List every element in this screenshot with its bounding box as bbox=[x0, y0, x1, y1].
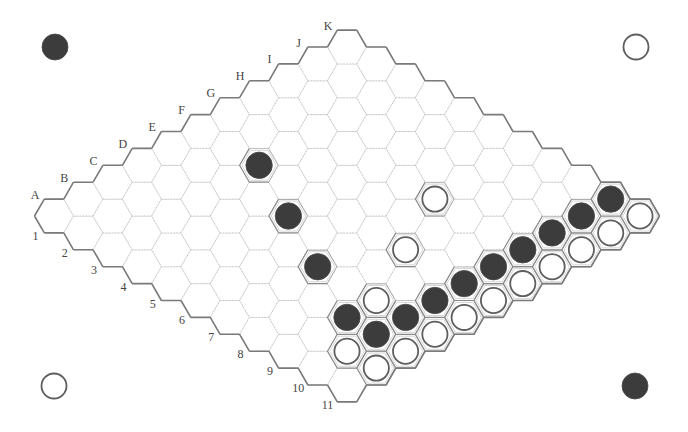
black-stone-K10 bbox=[598, 186, 624, 212]
black-stone-E10 bbox=[422, 287, 448, 313]
black-stone-F3 bbox=[246, 152, 272, 178]
white-stone-B10 bbox=[334, 339, 359, 364]
col-label-1: 1 bbox=[33, 229, 39, 243]
row-label-D: D bbox=[119, 137, 128, 151]
white-stone-F8 bbox=[393, 237, 418, 262]
col-label-10: 10 bbox=[292, 381, 304, 395]
row-label-A: A bbox=[31, 188, 40, 202]
row-label-F: F bbox=[178, 103, 185, 117]
row-label-E: E bbox=[149, 120, 156, 134]
black-stone-E5 bbox=[275, 203, 301, 229]
col-label-9: 9 bbox=[267, 364, 273, 378]
row-label-K: K bbox=[324, 19, 333, 33]
white-stone-C11 bbox=[393, 339, 418, 364]
white-stone-K11 bbox=[627, 203, 652, 228]
row-label-H: H bbox=[236, 69, 245, 83]
row-label-B: B bbox=[60, 171, 68, 185]
row-label-C: C bbox=[90, 154, 98, 168]
col-label-5: 5 bbox=[150, 297, 156, 311]
white-stone-F11 bbox=[481, 288, 506, 313]
corner-marker-top-left-black-icon bbox=[42, 34, 68, 60]
row-label-I: I bbox=[267, 52, 271, 66]
col-label-8: 8 bbox=[238, 347, 244, 361]
white-stone-D11 bbox=[422, 322, 447, 347]
black-stone-I10 bbox=[539, 220, 565, 246]
col-label-7: 7 bbox=[208, 330, 214, 344]
black-stone-G10 bbox=[480, 254, 506, 280]
white-stone-J11 bbox=[598, 220, 623, 245]
corner-marker-bottom-left-white-icon bbox=[42, 374, 67, 399]
col-label-2: 2 bbox=[62, 246, 68, 260]
white-stone-H11 bbox=[540, 254, 565, 279]
white-stone-E11 bbox=[452, 305, 477, 330]
white-stone-D9 bbox=[364, 288, 389, 313]
white-stone-I11 bbox=[569, 237, 594, 262]
corner-marker-top-right-white-icon bbox=[624, 35, 649, 60]
corner-marker-bottom-right-black-icon bbox=[622, 373, 648, 399]
black-stone-F10 bbox=[451, 270, 477, 296]
white-stone-H7 bbox=[422, 187, 447, 212]
row-label-G: G bbox=[206, 86, 215, 100]
white-stone-G11 bbox=[510, 271, 535, 296]
white-stone-B11 bbox=[364, 356, 389, 381]
col-label-4: 4 bbox=[120, 280, 126, 294]
hex-board: A1B2C3D4E5F6G7H8I9J10K11 bbox=[0, 0, 688, 432]
black-stone-D7 bbox=[305, 254, 331, 280]
row-label-J: J bbox=[296, 36, 301, 50]
black-stone-D10 bbox=[392, 304, 418, 330]
col-label-6: 6 bbox=[179, 313, 185, 327]
black-stone-C9 bbox=[334, 304, 360, 330]
black-stone-J10 bbox=[568, 203, 594, 229]
black-stone-H10 bbox=[510, 237, 536, 263]
col-label-11: 11 bbox=[322, 398, 334, 412]
col-label-3: 3 bbox=[91, 263, 97, 277]
black-stone-C10 bbox=[363, 321, 389, 347]
